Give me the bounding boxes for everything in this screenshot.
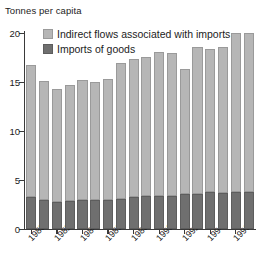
bar-segment-indirect-flows — [218, 47, 228, 193]
bar-segment-imports-of-goods — [244, 192, 254, 229]
bar-segment-indirect-flows — [103, 79, 113, 200]
legend-item-indirect-flows: Indirect flows associated with imports — [43, 27, 230, 41]
bar-segment-imports-of-goods — [52, 202, 62, 229]
bar-group — [77, 80, 87, 229]
bar-group — [129, 59, 139, 229]
bar-segment-imports-of-goods — [39, 200, 49, 229]
y-tick-label: 5 — [15, 175, 20, 186]
bar-segment-imports-of-goods — [218, 193, 228, 229]
bar-segment-indirect-flows — [205, 49, 215, 192]
bar-segment-imports-of-goods — [103, 200, 113, 229]
bar-group — [90, 82, 100, 229]
bar-segment-imports-of-goods — [90, 200, 100, 229]
y-tick-label: 20 — [9, 28, 20, 39]
legend-label-indirect: Indirect flows associated with imports — [57, 28, 230, 40]
bar-group — [167, 53, 177, 229]
bar-segment-imports-of-goods — [65, 201, 75, 229]
bar-segment-indirect-flows — [231, 33, 241, 192]
bar-segment-indirect-flows — [39, 81, 49, 200]
legend-swatch-icon-imports — [43, 44, 53, 54]
bar-segment-imports-of-goods — [77, 200, 87, 229]
bar-group — [231, 33, 241, 229]
y-tick-label: 0 — [15, 224, 20, 235]
bar-group — [39, 81, 49, 229]
bar-segment-imports-of-goods — [205, 192, 215, 229]
bar-segment-indirect-flows — [244, 33, 254, 192]
y-axis-title: Tonnes per capita — [5, 5, 82, 16]
bar-group — [244, 33, 254, 229]
y-tick-label: 15 — [9, 77, 20, 88]
bar-group — [218, 47, 228, 229]
bar-segment-indirect-flows — [52, 89, 62, 202]
bar-group — [116, 63, 126, 229]
bar-group — [103, 79, 113, 229]
plot-area — [25, 33, 255, 229]
bar-segment-indirect-flows — [90, 82, 100, 200]
chart-legend: Indirect flows associated with imports I… — [43, 27, 230, 57]
bar-group — [192, 47, 202, 229]
bar-segment-indirect-flows — [154, 52, 164, 196]
legend-item-imports-of-goods: Imports of goods — [43, 42, 230, 56]
bar-group — [141, 57, 151, 229]
bar-segment-indirect-flows — [116, 63, 126, 198]
bar-group — [180, 69, 190, 229]
bar-group — [205, 49, 215, 229]
bar-group — [154, 52, 164, 229]
bar-segment-imports-of-goods — [26, 197, 36, 229]
bar-segment-imports-of-goods — [129, 197, 139, 229]
bar-segment-indirect-flows — [129, 59, 139, 196]
bar-group — [65, 85, 75, 229]
bar-segment-imports-of-goods — [180, 194, 190, 229]
bar-group — [52, 89, 62, 229]
bar-segment-indirect-flows — [141, 57, 151, 196]
legend-swatch-icon-indirect — [43, 29, 53, 39]
bar-segment-indirect-flows — [167, 53, 177, 196]
bar-chart: Tonnes per capita 05101520 1980198219841… — [0, 0, 258, 266]
bar-segment-imports-of-goods — [167, 196, 177, 229]
bar-segment-indirect-flows — [65, 85, 75, 201]
bar-segment-indirect-flows — [77, 80, 87, 200]
bar-segment-indirect-flows — [192, 47, 202, 194]
bar-segment-imports-of-goods — [231, 192, 241, 229]
bar-segment-imports-of-goods — [154, 196, 164, 229]
bar-segment-indirect-flows — [26, 65, 36, 196]
bar-segment-imports-of-goods — [141, 196, 151, 229]
bar-segment-imports-of-goods — [192, 194, 202, 229]
bar-group — [26, 65, 36, 229]
bar-segment-indirect-flows — [180, 69, 190, 193]
legend-label-imports: Imports of goods — [57, 43, 135, 55]
bar-segment-imports-of-goods — [116, 199, 126, 229]
y-tick-label: 10 — [9, 126, 20, 137]
